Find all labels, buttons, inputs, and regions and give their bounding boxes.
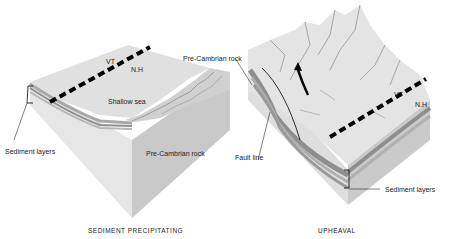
caption-left: SEDIMENT PRECIPITATING bbox=[88, 228, 183, 235]
label-vt-right: VT bbox=[394, 91, 403, 98]
left-block bbox=[14, 45, 230, 218]
label-pre-cambrian-right: Pre-Cambrian rock bbox=[183, 55, 242, 62]
right-block bbox=[235, 5, 430, 205]
label-nh-right: N.H bbox=[415, 101, 427, 108]
caption-right: UPHEAVAL bbox=[318, 228, 356, 235]
label-shallow-sea: Shallow sea bbox=[108, 98, 146, 105]
geology-diagram bbox=[0, 0, 449, 239]
label-pre-cambrian-left: Pre-Cambrian rock bbox=[146, 150, 205, 157]
label-nh-left: N.H bbox=[131, 66, 143, 73]
label-fault-line: Fault line bbox=[235, 154, 263, 161]
label-vt-left: VT bbox=[106, 58, 115, 65]
label-sediment-layers-right: Sediment layers bbox=[385, 186, 435, 193]
label-sediment-layers-left: Sediment layers bbox=[5, 148, 55, 155]
